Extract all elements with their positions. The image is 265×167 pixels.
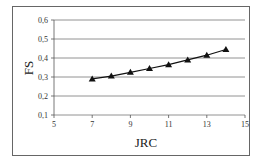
y-tick-label: 0,3 bbox=[38, 73, 48, 82]
line-chart: 0,10,20,30,40,50,6 579111315 JRC FS bbox=[0, 0, 265, 167]
y-tick-label: 0,1 bbox=[38, 111, 48, 120]
x-tick-label: 7 bbox=[90, 120, 94, 129]
x-tick-label: 13 bbox=[203, 120, 211, 129]
x-tick-label: 15 bbox=[241, 120, 249, 129]
y-tick-label: 0,4 bbox=[38, 54, 48, 63]
x-axis-ticks: 579111315 bbox=[52, 115, 249, 129]
y-axis-title: FS bbox=[21, 61, 36, 75]
x-tick-label: 11 bbox=[165, 120, 173, 129]
data-markers bbox=[89, 46, 230, 81]
y-tick-label: 0,2 bbox=[38, 92, 48, 101]
y-tick-label: 0,5 bbox=[38, 35, 48, 44]
y-axis-ticks: 0,10,20,30,40,50,6 bbox=[38, 16, 48, 120]
x-tick-label: 5 bbox=[52, 120, 56, 129]
y-tick-label: 0,6 bbox=[38, 16, 48, 25]
triangle-marker bbox=[222, 46, 229, 52]
gridlines bbox=[51, 20, 245, 115]
x-axis-title: JRC bbox=[135, 135, 157, 150]
x-tick-label: 9 bbox=[128, 120, 132, 129]
